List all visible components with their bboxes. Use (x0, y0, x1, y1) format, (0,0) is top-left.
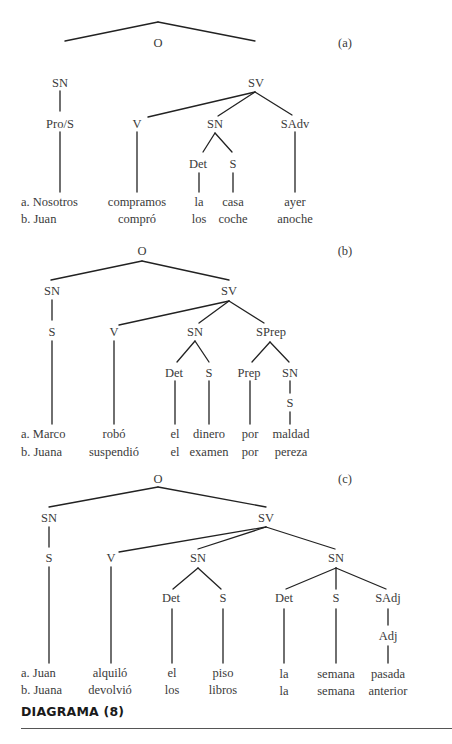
node-sn: SN (190, 551, 206, 565)
word-verb: robó (103, 427, 126, 441)
tree-tag: (c) (338, 472, 352, 486)
word-noun2: semana (317, 684, 355, 698)
node-sn: SN (187, 325, 203, 339)
tree-tag: (b) (338, 244, 353, 258)
word-noun2: semana (317, 667, 355, 681)
sentence-b: b. Juana devolvió los libros la semana a… (21, 683, 408, 698)
node-o: O (153, 472, 162, 486)
node-sv: SV (221, 284, 237, 298)
node-sn: SN (44, 284, 60, 298)
word-det2: la (279, 684, 288, 698)
word-det2: la (279, 667, 288, 681)
word-subject: a. Marco (21, 427, 65, 441)
word-verb: devolvió (88, 683, 132, 697)
tree-tag: (a) (338, 36, 352, 50)
sentence-a: a. Marco robó el dinero por maldad (21, 427, 310, 441)
tree-branches (60, 22, 295, 192)
node-sv: SV (258, 511, 274, 525)
node-det: Det (189, 157, 208, 171)
node-s: S (333, 591, 340, 605)
tree-branches (51, 261, 290, 424)
node-o: O (137, 244, 146, 258)
node-s: S (49, 325, 56, 339)
word-verb: alquiló (93, 666, 128, 680)
node-sadv: SAdv (281, 117, 310, 131)
syntax-tree-diagram: (a) O SN SV Pro/S V SN SAdv Det S a. Nos… (0, 0, 452, 744)
word-subject: b. Juana (21, 445, 62, 459)
word-adv: ayer (284, 195, 306, 209)
node-s: S (206, 366, 213, 380)
word-prep-noun: maldad (273, 427, 311, 441)
word-adj: anterior (369, 684, 409, 698)
sentence-a: a. Nosotros compramos la casa ayer (21, 195, 307, 209)
sentence-a: a. Juan alquiló el piso la semana pasada (21, 666, 405, 681)
word-subject: b. Juan (21, 212, 57, 226)
word-noun: dinero (193, 427, 225, 441)
word-subject: a. Juan (21, 666, 56, 680)
word-adj: pasada (371, 667, 405, 681)
node-o: O (153, 36, 162, 50)
node-prep: Prep (238, 366, 261, 380)
tree-branches (49, 487, 388, 663)
word-noun: libros (209, 683, 238, 697)
word-det: los (192, 212, 207, 226)
node-s: S (46, 551, 53, 565)
word-noun: piso (213, 666, 234, 680)
diagram-caption: DIAGRAMA (8) (21, 704, 124, 719)
node-s: S (287, 396, 294, 410)
tree-c: (c) O SN SV S V SN SN Det S Det S SAdj A… (21, 472, 408, 698)
word-det: el (170, 445, 180, 459)
word-verb: compró (118, 212, 156, 226)
word-noun: examen (190, 445, 230, 459)
node-sn: SN (328, 551, 344, 565)
node-v: V (109, 325, 118, 339)
node-sn: SN (207, 117, 223, 131)
word-det: el (170, 427, 180, 441)
word-det: los (165, 683, 180, 697)
node-pro-s: Pro/S (46, 117, 74, 131)
word-det: el (167, 666, 177, 680)
word-noun: coche (218, 212, 248, 226)
tree-b: (b) O SN SV S V SN SPrep Det S Prep SN S (21, 244, 352, 459)
node-det: Det (165, 366, 184, 380)
node-sprep: SPrep (256, 325, 286, 339)
node-sn: SN (282, 366, 298, 380)
node-v: V (106, 551, 115, 565)
sentence-b: b. Juan compró los coche anoche (21, 212, 313, 226)
node-v: V (132, 117, 141, 131)
node-s: S (230, 157, 237, 171)
caption-divider (21, 728, 452, 729)
node-sadj: SAdj (375, 591, 401, 605)
word-prep-noun: pereza (275, 445, 308, 459)
node-adj: Adj (379, 629, 398, 643)
node-sn: SN (41, 511, 57, 525)
word-det: la (194, 195, 203, 209)
word-prep: por (242, 445, 260, 459)
word-prep: por (242, 427, 260, 441)
node-sv: SV (248, 76, 264, 90)
node-sn: SN (52, 76, 68, 90)
word-subject: a. Nosotros (21, 195, 78, 209)
word-adv: anoche (277, 212, 313, 226)
word-subject: b. Juana (21, 683, 62, 697)
node-det: Det (275, 591, 294, 605)
word-noun: casa (222, 195, 244, 209)
node-det: Det (162, 591, 181, 605)
word-verb: compramos (108, 195, 166, 209)
sentence-b: b. Juana suspendió el examen por pereza (21, 445, 308, 459)
word-verb: suspendió (89, 445, 139, 459)
node-s: S (220, 591, 227, 605)
tree-a: (a) O SN SV Pro/S V SN SAdv Det S a. Nos… (21, 22, 352, 226)
